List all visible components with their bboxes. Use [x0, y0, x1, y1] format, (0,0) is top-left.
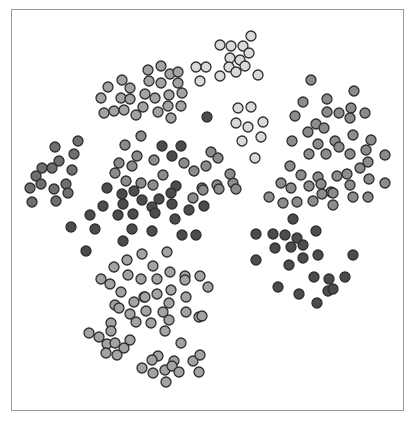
data-point: [364, 174, 374, 184]
data-point: [243, 122, 253, 132]
data-point: [127, 161, 137, 171]
data-point: [170, 214, 180, 224]
data-point: [125, 94, 135, 104]
data-point: [136, 131, 146, 141]
data-point: [328, 284, 338, 294]
data-point: [69, 149, 79, 159]
data-point: [167, 199, 177, 209]
data-point: [109, 106, 119, 116]
data-point: [195, 350, 205, 360]
data-point: [348, 192, 358, 202]
data-point: [253, 70, 263, 80]
data-point: [231, 184, 241, 194]
data-point: [294, 289, 304, 299]
data-point: [166, 285, 176, 295]
data-point: [150, 93, 160, 103]
data-point: [147, 226, 157, 236]
data-point: [156, 61, 166, 71]
data-point: [102, 183, 112, 193]
data-point: [270, 243, 280, 253]
data-point: [246, 31, 256, 41]
data-point: [157, 141, 167, 151]
data-point: [198, 185, 208, 195]
data-point: [148, 368, 158, 378]
data-point: [199, 201, 209, 211]
data-point: [125, 83, 135, 93]
data-point: [181, 292, 191, 302]
data-point: [288, 214, 298, 224]
data-point: [258, 117, 268, 127]
data-point: [349, 86, 359, 96]
data-point: [309, 272, 319, 282]
data-point: [328, 200, 338, 210]
data-point: [287, 136, 297, 146]
data-point: [231, 67, 241, 77]
data-point: [125, 335, 135, 345]
data-point: [360, 108, 370, 118]
data-point: [148, 261, 158, 271]
data-point: [322, 94, 332, 104]
data-point: [122, 255, 132, 265]
data-point: [94, 332, 104, 342]
series-cluster-right-lower-dark: [251, 214, 358, 308]
data-point: [251, 255, 261, 265]
data-point: [166, 113, 176, 123]
data-point: [90, 224, 100, 234]
data-point: [313, 139, 323, 149]
data-point: [191, 230, 201, 240]
data-point: [189, 166, 199, 176]
data-point: [306, 75, 316, 85]
data-point: [161, 377, 171, 387]
data-point: [348, 130, 358, 140]
data-point: [286, 183, 296, 193]
data-point: [118, 199, 128, 209]
data-point: [116, 287, 126, 297]
data-point: [101, 348, 111, 358]
data-point: [201, 62, 211, 72]
data-point: [114, 303, 124, 313]
data-point: [164, 298, 174, 308]
series-cluster-bottom-left: [84, 247, 213, 387]
data-point: [149, 155, 159, 165]
data-point: [84, 328, 94, 338]
data-point: [286, 242, 296, 252]
data-point: [176, 141, 186, 151]
data-point: [27, 197, 37, 207]
data-point: [363, 157, 373, 167]
data-point: [197, 311, 207, 321]
data-point: [174, 367, 184, 377]
data-point: [99, 108, 109, 118]
data-point: [237, 136, 247, 146]
data-point: [136, 274, 146, 284]
data-point: [346, 103, 356, 113]
data-point: [334, 142, 344, 152]
data-point: [213, 153, 223, 163]
data-point: [163, 101, 173, 111]
data-point: [319, 123, 329, 133]
data-point: [137, 363, 147, 373]
data-point: [214, 184, 224, 194]
data-point: [47, 163, 57, 173]
data-point: [284, 260, 294, 270]
data-point: [240, 61, 250, 71]
data-point: [25, 183, 35, 193]
data-point: [296, 170, 306, 180]
series-cluster-top-left: [96, 61, 187, 123]
data-point: [66, 222, 76, 232]
data-point: [131, 110, 141, 120]
data-point: [191, 62, 201, 72]
data-point: [167, 151, 177, 161]
data-point: [348, 250, 358, 260]
data-point: [304, 181, 314, 191]
data-point: [141, 306, 151, 316]
data-point: [215, 71, 225, 81]
data-point: [96, 93, 106, 103]
data-point: [181, 307, 191, 317]
data-point: [118, 236, 128, 246]
data-point: [158, 170, 168, 180]
data-point: [244, 48, 254, 58]
data-point: [144, 76, 154, 86]
data-point: [36, 179, 46, 189]
data-point: [148, 180, 158, 190]
data-point: [164, 90, 174, 100]
